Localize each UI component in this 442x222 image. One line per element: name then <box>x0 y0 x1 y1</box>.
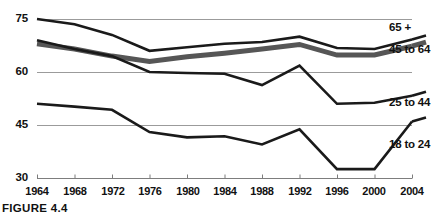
x-axis-tick-label: 1992 <box>280 185 320 197</box>
series-line-65 <box>37 19 412 51</box>
series-leader <box>412 117 426 121</box>
x-axis-tick-label: 1988 <box>242 185 282 197</box>
x-axis-tick-label: 1984 <box>205 185 245 197</box>
figure-caption: FIGURE 4.4 <box>2 202 68 214</box>
x-axis-tick-label: 1964 <box>17 185 57 197</box>
x-axis-tick-label: 1976 <box>130 185 170 197</box>
series-label-65-plus: 65 + <box>389 21 411 33</box>
x-axis-tick-label: 1996 <box>317 185 357 197</box>
series-line-18-to-24 <box>37 104 412 169</box>
x-axis-tick-label: 2000 <box>354 185 394 197</box>
series-label-18-to-24: 18 to 24 <box>389 138 430 150</box>
y-axis-tick-label: 60 <box>2 65 28 77</box>
series-label-45-to-64: 45 to 64 <box>389 43 430 55</box>
figure-container: 75 60 45 30 1964 1968 1972 1976 1980 198… <box>0 0 442 222</box>
series-leader <box>412 35 426 39</box>
x-axis-tick-label: 1968 <box>55 185 95 197</box>
series-label-25-to-44: 25 to 44 <box>389 96 430 108</box>
x-axis-tick-label: 2004 <box>392 185 432 197</box>
y-axis-tick-label: 75 <box>2 12 28 24</box>
y-axis-tick-label: 30 <box>2 171 28 183</box>
x-axis-tick-label: 1980 <box>168 185 208 197</box>
x-axis-tick-label: 1972 <box>93 185 133 197</box>
y-axis-tick-label: 45 <box>2 118 28 130</box>
